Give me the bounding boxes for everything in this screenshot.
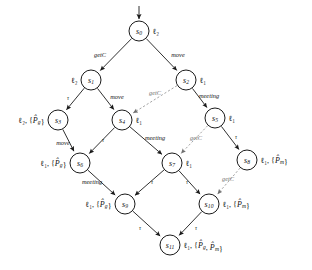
edge-label-s3-s6: move [56, 139, 70, 146]
edge-label-s5-s7: getC [190, 134, 203, 141]
state-annotation-s1: ℓ₂ [71, 75, 78, 84]
state-annotation-s3: ℓ₂, {P̂g} [18, 114, 44, 126]
state-node-s8[interactable]: s8 [237, 150, 257, 170]
state-node-s5[interactable]: s5 [205, 108, 225, 128]
state-annotation-s9: ℓ₁, {P̂g} [85, 198, 111, 210]
edge-label-s7-s9: τ [151, 179, 154, 185]
edge-label-s5-s8: τ [235, 134, 238, 140]
edge-label-s7-s10: τ [186, 179, 189, 185]
edge-label-s6-s9: meeting [82, 178, 103, 185]
state-node-s10[interactable]: s10 [199, 194, 219, 214]
edge-label-s4-s7: meeting [145, 134, 166, 141]
state-node-s0[interactable]: s0 [129, 21, 149, 41]
state-node-s9[interactable]: s9 [115, 194, 135, 214]
edge-label-s10-s11: τ [195, 225, 198, 231]
transition-edge-s1-s3 [67, 88, 85, 109]
state-annotation-s2: ℓ₁ [200, 75, 207, 84]
edge-label-s2-s5: meeting [199, 92, 220, 99]
state-node-s4[interactable]: s4 [112, 110, 132, 130]
edge-label-s2-s4: getC [149, 89, 162, 96]
edge-label-s0-s2: move [171, 51, 185, 58]
state-node-s3[interactable]: s3 [48, 110, 68, 130]
edge-label-s8-s10: getC [222, 175, 235, 182]
transition-system-graph: s0s1s2s3s4s5s6s7s8s9s10s11 getCmoveτmove… [0, 0, 312, 270]
state-node-s6[interactable]: s6 [70, 153, 90, 173]
state-node-s11[interactable]: s11 [160, 235, 180, 255]
transition-edge-s10-s11 [179, 212, 201, 236]
edge-label-s1-s3: τ [67, 95, 70, 101]
state-annotation-s11: ℓ₁, {P̂g, P̂m} [184, 239, 223, 253]
edge-label-s9-s11: τ [139, 225, 142, 231]
state-node-s1[interactable]: s1 [81, 70, 101, 90]
state-node-s7[interactable]: s7 [162, 153, 182, 173]
diagram-canvas: s0s1s2s3s4s5s6s7s8s9s10s11 getCmoveτmove… [0, 0, 312, 270]
state-annotation-s5: ℓ₁ [229, 113, 236, 122]
state-annotation-s8: ℓ₁, {P̂m} [261, 154, 289, 166]
state-annotation-s4: ℓ₁ [136, 115, 143, 124]
state-annotation-s6: ℓ₁, {P̂g} [40, 157, 66, 169]
transition-edge-s9-s11 [133, 211, 160, 236]
edge-label-s1-s4: move [110, 93, 124, 100]
state-annotation-s10: ℓ₁, {P̂m} [223, 198, 251, 210]
state-annotation-s7: ℓ₁ [186, 158, 193, 167]
transition-edge-s7-s9 [135, 170, 164, 195]
state-annotation-s0: ℓ₂ [153, 26, 160, 35]
state-node-s2[interactable]: s2 [176, 70, 196, 90]
transition-edge-s7-s10 [179, 171, 200, 194]
edge-label-s0-s1: getC [94, 51, 107, 58]
